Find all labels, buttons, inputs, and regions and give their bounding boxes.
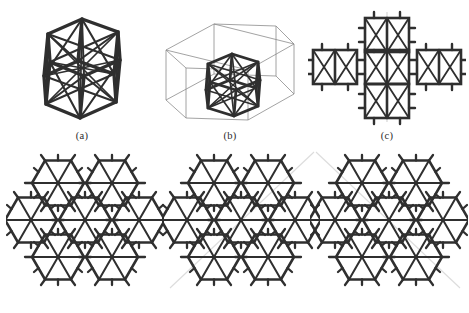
panel-f-honeycomb xyxy=(310,155,468,285)
panel-b-caption: (b) xyxy=(152,130,308,141)
panel-f-artwork xyxy=(310,150,468,290)
panel-e-artwork xyxy=(162,150,320,290)
panel-a: (a) xyxy=(8,4,156,150)
panel-e: (e) xyxy=(162,150,320,310)
panel-d-honeycomb xyxy=(6,155,164,285)
panel-c-caption: (c) xyxy=(308,130,466,141)
panel-d: (d) xyxy=(6,150,164,310)
panel-b: (b) xyxy=(152,4,308,150)
panel-a-caption: (a) xyxy=(8,130,156,141)
panel-f: (f) xyxy=(310,150,468,310)
panel-b-artwork xyxy=(152,4,308,130)
panel-d-artwork xyxy=(6,150,164,290)
panel-a-artwork xyxy=(8,4,156,130)
panel-c: (c) xyxy=(308,4,466,150)
figure-canvas: (a) xyxy=(0,0,469,313)
panel-c-artwork xyxy=(308,4,466,130)
panel-e-honeycomb xyxy=(162,155,320,285)
